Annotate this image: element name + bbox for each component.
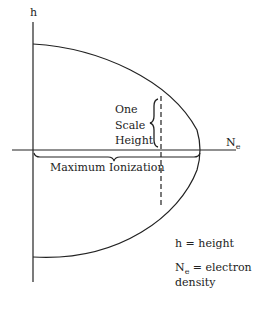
ne-axis-label: Ne [226, 136, 240, 150]
legend-height-definition: h = height [175, 237, 234, 250]
scale-height-label-line-1: One [115, 103, 138, 116]
ne-axis-symbol: N [226, 136, 236, 149]
max-ionization-brace [34, 153, 200, 161]
legend-electron-density-definition: Ne = electron [175, 261, 252, 275]
legend-ne-text: = electron [189, 261, 251, 274]
density-profile-curve [33, 44, 200, 257]
legend-ne-symbol: N [175, 261, 185, 274]
scale-height-label-line-2: Scale [115, 119, 145, 132]
h-axis-label: h [30, 6, 37, 19]
legend-ne-subscript: e [185, 267, 190, 276]
ne-axis-subscript: e [236, 142, 241, 151]
scale-height-label-line-3: Height [115, 134, 153, 147]
legend-electron-density-line-2: density [175, 276, 215, 289]
max-ionization-label: Maximum Ionization [50, 161, 165, 174]
